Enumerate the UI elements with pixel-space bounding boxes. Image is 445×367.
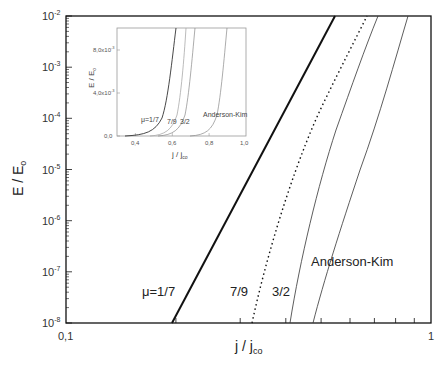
label-mu-1-7: μ=1/7 <box>142 284 175 299</box>
y-axis-title: E / Eo <box>10 161 28 196</box>
main-x-ticks <box>176 318 414 323</box>
svg-text:10-4: 10-4 <box>42 111 61 124</box>
label-7-9: 7/9 <box>230 284 248 299</box>
curve-3-2 <box>290 16 378 323</box>
chart-canvas: 10-8 10-7 10-6 10-5 10-4 10-3 10-2 0,1 1… <box>0 0 445 367</box>
svg-text:10-2: 10-2 <box>42 9 61 22</box>
label-anderson-kim: Anderson-Kim <box>311 254 393 269</box>
svg-text:10-3: 10-3 <box>42 60 61 73</box>
inset-x-tick-0-6: 0,6 <box>168 140 177 146</box>
inset-label-7-9: 7/9 <box>167 118 177 125</box>
inset-label-3-2: 3/2 <box>180 118 190 125</box>
inset-y-tick-0: 0,0 <box>104 133 113 139</box>
inset-x-tick-0-8: 0,8 <box>205 140 214 146</box>
inset-y-tick-4e-3: 4,0x10-3 <box>93 88 115 96</box>
inset-label-anderson-kim: Anderson-Kim <box>203 111 248 118</box>
label-3-2: 3/2 <box>272 284 290 299</box>
inset-plot: 0,0 4,0x10-3 8,0x10-3 0,4 0,6 0,8 1,0 E … <box>87 28 249 160</box>
svg-text:10-5: 10-5 <box>42 163 61 176</box>
svg-text:10-6: 10-6 <box>42 214 61 227</box>
x-tick-0-1: 0,1 <box>58 330 73 342</box>
inset-x-tick-1-0: 1,0 <box>240 140 249 146</box>
inset-label-mu-1-7: μ=1/7 <box>141 116 159 124</box>
main-y-tick-labels: 10-8 10-7 10-6 10-5 10-4 10-3 10-2 <box>42 9 61 329</box>
x-axis-title: j / jco <box>234 338 262 356</box>
main-y-ticks <box>66 16 72 323</box>
inset-x-title: j / jco <box>171 150 188 160</box>
inset-y-title: E / Eo <box>87 68 97 88</box>
inset-x-tick-0-4: 0,4 <box>131 140 140 146</box>
inset-y-tick-8e-3: 8,0x10-3 <box>93 45 115 53</box>
x-tick-1: 1 <box>428 330 434 342</box>
svg-text:10-7: 10-7 <box>42 265 61 278</box>
svg-text:10-8: 10-8 <box>42 316 61 329</box>
